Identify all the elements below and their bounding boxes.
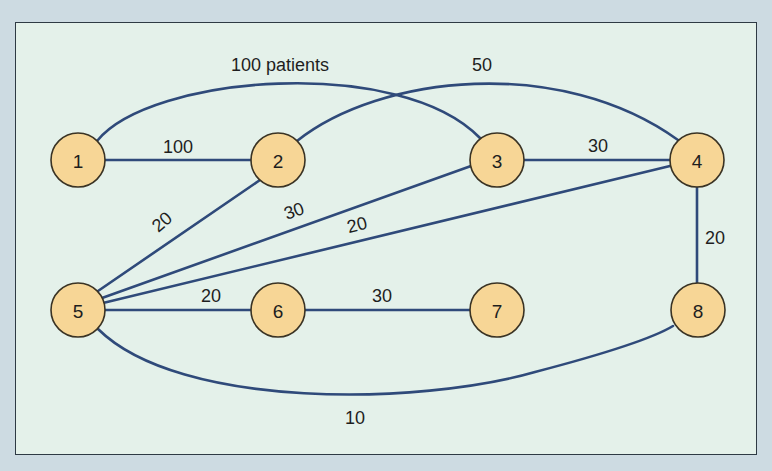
node-4: 4 (670, 133, 724, 187)
node-8: 8 (671, 283, 725, 337)
edge-5-2 (98, 180, 260, 291)
node-label-7: 7 (492, 301, 503, 322)
node-label-8: 8 (693, 301, 704, 322)
edge-label-1-3: 100 patients (231, 55, 329, 75)
node-7: 7 (470, 283, 524, 337)
node-label-6: 6 (273, 301, 284, 322)
node-2: 2 (251, 133, 305, 187)
edge-label-5-8: 10 (345, 408, 365, 428)
node-6: 6 (251, 283, 305, 337)
network-graph: 100 100 patients 50 30 20 30 20 20 30 20… (0, 0, 772, 471)
edge-label-5-3: 30 (281, 198, 307, 224)
node-5: 5 (51, 283, 105, 337)
edge-label-4-8: 20 (705, 228, 725, 248)
edge-label-2-4: 50 (472, 55, 492, 75)
edge-5-8 (98, 326, 673, 394)
edge-1-3 (97, 83, 480, 141)
node-3: 3 (470, 133, 524, 187)
edge-label-3-4: 30 (588, 136, 608, 156)
node-label-4: 4 (692, 151, 703, 172)
edge-label-5-2: 20 (148, 208, 176, 236)
edge-2-4 (297, 84, 678, 141)
edge-label-6-7: 30 (372, 286, 392, 306)
edge-labels: 100 100 patients 50 30 20 30 20 20 30 20… (148, 55, 725, 428)
node-label-5: 5 (73, 301, 84, 322)
node-label-3: 3 (492, 151, 503, 172)
edge-5-4 (103, 166, 670, 303)
edge-label-1-2: 100 (163, 137, 193, 157)
node-label-2: 2 (273, 151, 284, 172)
edge-label-5-4: 20 (345, 213, 369, 237)
edges (97, 83, 697, 394)
node-label-1: 1 (73, 151, 84, 172)
node-1: 1 (51, 133, 105, 187)
edge-label-5-6: 20 (201, 286, 221, 306)
